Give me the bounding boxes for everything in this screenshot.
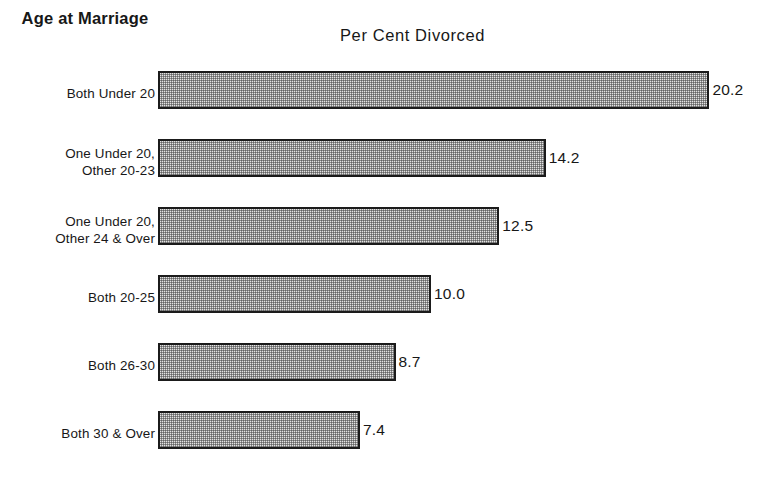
bar-row-label: Both 20-25 <box>0 289 155 306</box>
bar-value-label: 10.0 <box>431 285 465 303</box>
bar-shape <box>158 411 360 449</box>
bar-value-label: 14.2 <box>546 149 580 167</box>
bar-shape <box>158 275 431 313</box>
chart-title: Per Cent Divorced <box>340 26 485 45</box>
bar-value-label: 20.2 <box>709 81 743 99</box>
bar-shape <box>158 207 499 245</box>
bar-value-label: 12.5 <box>499 217 533 235</box>
bar-row: Both Under 20 20.2 <box>0 60 768 128</box>
bar-row-label: Both Under 20 <box>0 85 155 102</box>
bar-row: One Under 20, Other 24 & Over 12.5 <box>0 196 768 264</box>
bar-row: Both 20-25 10.0 <box>0 264 768 332</box>
bar-row-label: One Under 20, Other 24 & Over <box>0 213 155 248</box>
bar-shape <box>158 343 396 381</box>
bar-row: One Under 20, Other 20-23 14.2 <box>0 128 768 196</box>
bar-rows: Both Under 20 20.2 One Under 20, Other 2… <box>0 60 768 468</box>
bar-shape <box>158 139 546 177</box>
bar-value-label: 8.7 <box>396 353 421 371</box>
bar-row: Both 30 & Over 7.4 <box>0 400 768 468</box>
bar-shape <box>158 71 709 109</box>
bar-value-label: 7.4 <box>360 421 385 439</box>
bar-row-label: Both 26-30 <box>0 357 155 374</box>
bar-chart: Age at Marriage Per Cent Divorced Both U… <box>0 0 768 487</box>
bar-row-label: Both 30 & Over <box>0 425 155 442</box>
bar-row: Both 26-30 8.7 <box>0 332 768 400</box>
bar-row-label: One Under 20, Other 20-23 <box>0 145 155 180</box>
category-column-header: Age at Marriage <box>14 8 156 29</box>
